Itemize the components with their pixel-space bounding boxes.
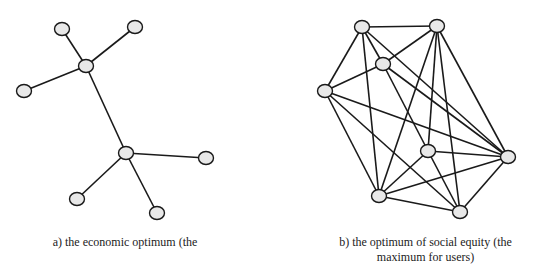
caption-economic-optimum: a) the economic optimum (the — [20, 235, 230, 250]
nodes — [318, 20, 516, 219]
edge-C-F — [383, 64, 508, 157]
caption-line-2: maximum for users) — [318, 250, 533, 265]
caption-line-1: b) the optimum of social equity (the — [318, 235, 533, 250]
node-n5 — [119, 147, 134, 160]
edges — [24, 27, 206, 213]
graph-economic-optimum — [17, 21, 214, 220]
edge-C-E — [383, 64, 428, 151]
node-H — [453, 206, 468, 219]
edge-E-H — [428, 151, 460, 212]
node-G — [372, 190, 387, 203]
nodes — [17, 21, 214, 220]
edge-D-F — [325, 91, 508, 157]
edge-n5-n6 — [126, 153, 206, 158]
edge-F-G — [379, 157, 508, 196]
edge-n3-n4 — [24, 66, 86, 91]
graph-social-equity-optimum — [318, 20, 516, 219]
edge-F-H — [460, 157, 508, 212]
caption-social-equity-optimum: b) the optimum of social equity (the max… — [318, 235, 533, 265]
edges — [325, 26, 508, 212]
node-n3 — [79, 60, 94, 73]
edge-B-E — [428, 26, 437, 151]
edge-B-F — [437, 26, 508, 157]
edge-A-D — [325, 27, 362, 91]
edge-n5-n8 — [126, 153, 157, 213]
node-n7 — [70, 193, 85, 206]
edge-G-H — [379, 196, 460, 212]
edge-n3-n2 — [86, 27, 135, 66]
node-E — [421, 145, 436, 158]
edge-n3-n5 — [86, 66, 126, 153]
node-F — [501, 151, 516, 164]
node-n8 — [150, 207, 165, 220]
edge-A-B — [362, 26, 437, 27]
node-n1 — [55, 23, 70, 36]
node-n4 — [17, 85, 32, 98]
node-n2 — [128, 21, 143, 34]
node-D — [318, 85, 333, 98]
node-C — [376, 58, 391, 71]
edge-B-C — [383, 26, 437, 64]
node-B — [430, 20, 445, 33]
node-A — [355, 21, 370, 34]
node-n6 — [199, 152, 214, 165]
edge-n5-n7 — [77, 153, 126, 199]
